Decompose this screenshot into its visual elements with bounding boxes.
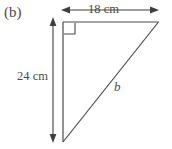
hypotenuse-label: b	[114, 80, 121, 93]
right-angle-marker-icon	[64, 23, 75, 34]
triangle-hypotenuse	[63, 22, 159, 142]
top-dimension-label: 18 cm	[88, 3, 119, 16]
top-dimension-right-arrowhead-icon	[150, 7, 159, 14]
left-dimension-label: 24 cm	[17, 70, 48, 83]
left-dimension-bottom-arrowhead-icon	[50, 134, 57, 143]
left-dimension-top-arrowhead-icon	[50, 17, 57, 26]
top-dimension-left-arrowhead-icon	[61, 7, 70, 14]
part-label: (b)	[4, 5, 22, 20]
geometry-figure: (b) 18 cm 24 cm b	[0, 0, 172, 149]
